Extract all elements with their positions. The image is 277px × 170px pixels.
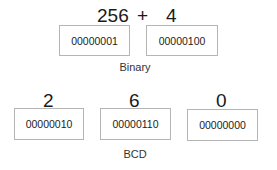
bcd-box-2-text: 00000110: [113, 118, 159, 130]
plus-operator: +: [137, 6, 148, 25]
bcd-box-3: 00000000: [187, 109, 258, 141]
binary-box-2: 00000100: [146, 25, 218, 56]
binary-value-256: 256: [97, 6, 129, 25]
bcd-caption: BCD: [110, 148, 160, 160]
bcd-box-3-text: 00000000: [199, 119, 246, 131]
binary-box-1: 00000001: [59, 25, 130, 56]
binary-value-4: 4: [166, 6, 177, 25]
binary-box-1-text: 00000001: [71, 35, 118, 47]
binary-caption: Binary: [110, 61, 160, 73]
bcd-box-1: 00000010: [14, 108, 84, 140]
bcd-box-2: 00000110: [100, 108, 171, 140]
bcd-box-1-text: 00000010: [26, 118, 73, 130]
bcd-digit-0: 0: [216, 91, 227, 110]
binary-box-2-text: 00000100: [159, 35, 206, 47]
